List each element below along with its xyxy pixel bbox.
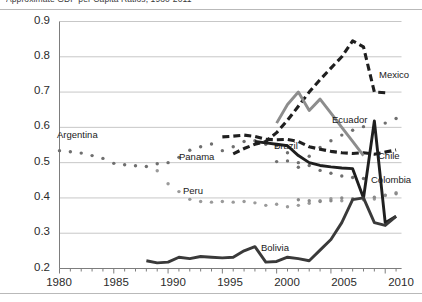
series-label-brazil: Brazil — [274, 141, 298, 151]
series-label-colombia: Colombia — [371, 175, 411, 185]
x-tick-4: 2000 — [264, 277, 310, 289]
x-tick-1: 1985 — [93, 277, 139, 289]
y-tick-5: 0.4 — [12, 191, 50, 203]
y-tick-4: 0.5 — [12, 156, 50, 168]
x-tick-0: 1980 — [36, 277, 82, 289]
series-label-mexico: Mexico — [379, 70, 409, 80]
x-tick-2: 1990 — [150, 277, 196, 289]
y-tick-7: 0.2 — [12, 262, 50, 274]
series-label-peru: Peru — [183, 186, 203, 196]
series-label-bolivia: Bolivia — [261, 243, 289, 253]
y-tick-0: 0.9 — [12, 15, 50, 27]
y-tick-1: 0.8 — [12, 50, 50, 62]
series-label-panama: Panama — [179, 152, 214, 162]
series-label-argentina: Argentina — [57, 130, 98, 140]
series-label-chile: Chile — [378, 151, 400, 161]
y-tick-3: 0.6 — [12, 120, 50, 132]
x-tick-3: 1995 — [207, 277, 253, 289]
y-tick-2: 0.7 — [12, 85, 50, 97]
series-label-ecuador: Ecuador — [332, 115, 367, 125]
x-tick-6: 2010 — [378, 277, 422, 289]
x-tick-5: 2005 — [321, 277, 367, 289]
chart-container: Approximate GDP per Capita Ratios, 1980-… — [0, 0, 422, 302]
y-tick-6: 0.3 — [12, 226, 50, 238]
